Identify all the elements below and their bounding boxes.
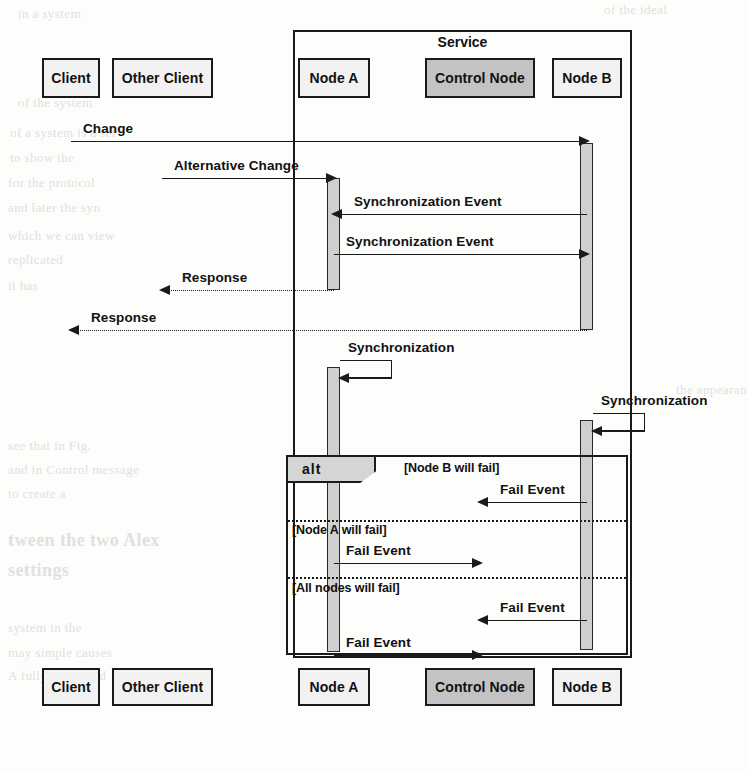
message-label: Fail Event: [500, 600, 565, 615]
participant-head-client: Client: [42, 58, 100, 98]
message-label: Response: [182, 270, 247, 285]
bleedthrough-text: see that in Fig.: [8, 438, 91, 454]
bleedthrough-text: to create a: [8, 486, 66, 502]
alt-guard-condition: [Node A will fail]: [292, 523, 387, 537]
participant-head-other_client: Other Client: [112, 58, 213, 98]
participant-foot-node_b: Node B: [552, 668, 622, 706]
participant-label: Node A: [309, 70, 358, 86]
message-label: Fail Event: [500, 482, 565, 497]
message-label: Response: [91, 310, 156, 325]
participant-label: Control Node: [435, 70, 525, 86]
bleedthrough-text: it has: [8, 278, 38, 294]
message-label: Alternative Change: [174, 158, 299, 173]
message-label: Synchronization: [348, 340, 455, 355]
bleedthrough-text: may simple causes: [8, 645, 112, 661]
participant-head-node_b: Node B: [552, 58, 622, 98]
alt-operand-divider: [288, 577, 626, 579]
arrowhead-icon: [477, 497, 488, 507]
message-line: [71, 141, 581, 142]
arrowhead-icon: [338, 373, 349, 383]
message-line: [334, 655, 474, 656]
participant-label: Client: [51, 70, 91, 86]
bleedthrough-text: and in Control message: [8, 462, 139, 478]
bleedthrough-text: and later the syn: [8, 200, 100, 216]
bleedthrough-text: settings: [8, 560, 69, 581]
message-line: [486, 620, 587, 621]
participant-foot-control_node: Control Node: [425, 668, 535, 706]
participant-foot-node_a: Node A: [298, 668, 370, 706]
message-label: Synchronization Event: [346, 234, 494, 249]
arrowhead-icon: [579, 249, 590, 259]
bleedthrough-text: tween the two Alex: [8, 530, 160, 551]
alt-operand-divider: [288, 520, 626, 522]
message-line: [340, 214, 587, 215]
message-line: [486, 502, 587, 503]
bleedthrough-text: system in the: [8, 620, 82, 636]
participant-label: Node B: [562, 70, 612, 86]
arrowhead-icon: [159, 285, 170, 295]
alt-combined-fragment: [286, 455, 628, 655]
participant-label: Client: [51, 679, 91, 695]
participant-head-control_node: Control Node: [425, 58, 535, 98]
arrowhead-icon: [331, 209, 342, 219]
bleedthrough-text: to show the: [10, 150, 74, 166]
service-frame-label: Service: [293, 34, 632, 50]
bleedthrough-text: in a system: [18, 6, 81, 22]
participant-label: Node A: [309, 679, 358, 695]
alt-guard-condition: [Node B will fail]: [404, 461, 499, 475]
alt-operator-tag: alt: [288, 457, 376, 483]
message-line: [77, 330, 587, 331]
arrowhead-icon: [591, 426, 602, 436]
message-line: [168, 290, 334, 291]
message-label: Fail Event: [346, 543, 411, 558]
message-line: [162, 178, 328, 179]
bleedthrough-text: which we can view: [8, 228, 115, 244]
message-label: Synchronization: [601, 393, 708, 408]
message-line: [334, 254, 581, 255]
alt-guard-condition: [All nodes will fail]: [292, 581, 400, 595]
participant-foot-other_client: Other Client: [112, 668, 213, 706]
message-label: Fail Event: [346, 635, 411, 650]
activation-bar-node_a: [327, 178, 340, 290]
message-line: [334, 563, 474, 564]
arrowhead-icon: [68, 325, 79, 335]
arrowhead-icon: [326, 173, 337, 183]
message-label: Synchronization Event: [354, 194, 502, 209]
participant-label: Other Client: [122, 70, 203, 86]
arrowhead-icon: [579, 136, 590, 146]
bleedthrough-text: of the ideal: [604, 2, 667, 18]
arrowhead-icon: [477, 615, 488, 625]
participant-label: Node B: [562, 679, 612, 695]
arrowhead-icon: [472, 558, 483, 568]
sequence-diagram-page: in a systemof the idealof the systemof a…: [0, 0, 749, 772]
activation-bar-node_b: [580, 143, 593, 330]
message-label: Change: [83, 121, 133, 136]
participant-label: Control Node: [435, 679, 525, 695]
participant-foot-client: Client: [42, 668, 100, 706]
bleedthrough-text: for the protocol: [8, 175, 95, 191]
bleedthrough-text: replicated: [8, 252, 63, 268]
participant-label: Other Client: [122, 679, 203, 695]
participant-head-node_a: Node A: [298, 58, 370, 98]
arrowhead-icon: [472, 650, 483, 660]
